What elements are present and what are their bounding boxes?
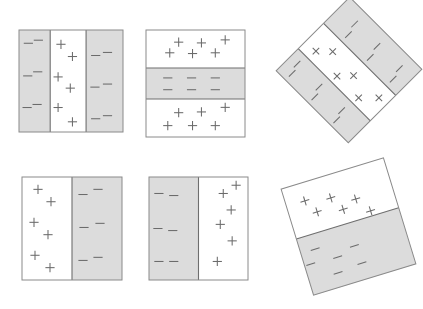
two-band-horizontal-rotated [281,158,416,295]
band-gray-negative [19,30,50,132]
panels-group [19,0,422,295]
band-gray-negative [72,177,122,280]
band-gray-negative [146,68,245,99]
two-band-vertical-positive-left [22,177,122,280]
band-white-positive [22,177,72,280]
panels-diagram [0,0,423,309]
two-band-vertical-negative-left [149,177,248,280]
band-white-positive [146,30,245,68]
band-gray-negative [86,30,123,132]
band-white-positive [50,30,86,132]
figure-canvas [0,0,423,309]
three-band-horizontal [146,30,245,137]
three-band-vertical [19,30,123,132]
band-white-positive [146,99,245,137]
three-band-vertical-rotated [276,0,422,143]
